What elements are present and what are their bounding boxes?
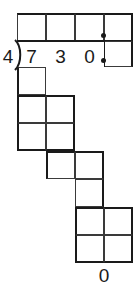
quotient-cell-4[interactable] — [104, 13, 133, 41]
work-cell-r6-c3[interactable] — [75, 207, 104, 235]
dividend-digit-2: 3 — [51, 47, 70, 66]
work-cell-r5-c3[interactable] — [75, 179, 104, 207]
work-cell-r4-c2[interactable] — [46, 151, 75, 179]
work-cell-r3-c2[interactable] — [46, 123, 75, 151]
quotient-cell-3[interactable] — [75, 13, 104, 41]
remainder-digit: 0 — [94, 266, 114, 285]
work-cell-r4-c3[interactable] — [75, 151, 104, 179]
quotient-decimal-dot — [101, 33, 106, 38]
work-cell-r2-c2[interactable] — [46, 95, 75, 123]
work-cell-r6-c4[interactable] — [104, 207, 133, 235]
work-cell-r7-c4[interactable] — [104, 235, 133, 263]
long-division-worksheet: 4 7 3 0 0 — [0, 0, 136, 289]
quotient-cell-1[interactable] — [17, 13, 46, 41]
dividend-trailing-cell-left-edge — [104, 41, 105, 67]
dividend-digit-3: 0 — [80, 47, 99, 66]
work-cell-r2-c1[interactable] — [17, 95, 46, 123]
work-cell-r3-c1[interactable] — [17, 123, 46, 151]
dividend-trailing-cell[interactable] — [104, 41, 133, 67]
work-cell-r7-c3[interactable] — [75, 235, 104, 263]
dividend-digit-1: 7 — [22, 47, 41, 66]
quotient-cell-2[interactable] — [46, 13, 75, 41]
work-cell-r1-c1[interactable] — [17, 67, 46, 95]
